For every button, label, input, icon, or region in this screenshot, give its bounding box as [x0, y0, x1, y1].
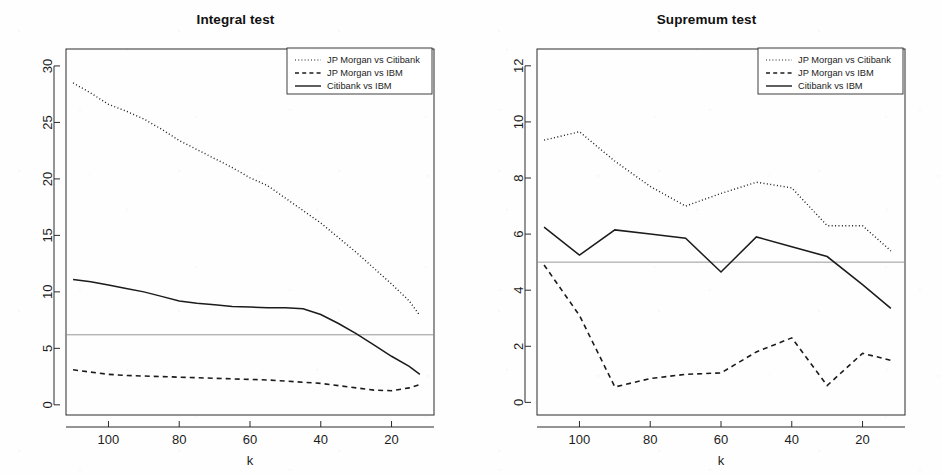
y-tick-label: 15 — [41, 228, 56, 242]
chart-panel-integral-test: Integral test 05101520253010080604020kJP… — [0, 0, 471, 475]
series-line-right-0 — [544, 132, 891, 251]
y-tick-label: 5 — [41, 345, 56, 352]
y-tick-label: 0 — [41, 401, 56, 408]
series-line-right-2 — [544, 227, 891, 308]
x-tick-label: 20 — [855, 432, 869, 447]
series-line-left-0 — [73, 83, 420, 316]
x-axis: 10080604020 — [66, 421, 434, 447]
legend: JP Morgan vs CitibankJP Morgan vs IBMCit… — [758, 48, 903, 94]
legend-label: JP Morgan vs IBM — [327, 68, 403, 78]
x-tick-label: 20 — [384, 432, 398, 447]
series-line-left-1 — [73, 370, 420, 391]
legend-label: JP Morgan vs IBM — [798, 68, 874, 78]
x-tick-label: 60 — [714, 432, 728, 447]
x-axis: 10080604020 — [537, 421, 905, 447]
y-tick-label: 6 — [512, 230, 527, 237]
x-tick-label: 100 — [569, 432, 591, 447]
plot-area-integral-test: 05101520253010080604020kJP Morgan vs Cit… — [0, 0, 471, 475]
plot-frame — [66, 49, 434, 415]
y-axis: 024681012 — [512, 59, 532, 406]
y-tick-label: 30 — [41, 59, 56, 73]
chart-panel-supremum-test: Supremum test 02468101210080604020kJP Mo… — [471, 0, 942, 475]
legend-label: JP Morgan vs Citibank — [327, 55, 420, 65]
y-tick-label: 4 — [512, 287, 527, 294]
x-axis-title: k — [718, 453, 725, 468]
plot-frame — [537, 49, 905, 415]
x-tick-label: 40 — [314, 432, 328, 447]
y-tick-label: 10 — [41, 285, 56, 299]
x-axis-title: k — [247, 453, 254, 468]
y-tick-label: 0 — [512, 399, 527, 406]
legend-label: Citibank vs IBM — [798, 81, 863, 91]
x-tick-label: 80 — [172, 432, 186, 447]
x-tick-label: 40 — [785, 432, 799, 447]
y-axis: 051015202530 — [41, 59, 61, 409]
y-tick-label: 12 — [512, 59, 527, 73]
series-line-right-1 — [544, 265, 891, 387]
x-tick-label: 80 — [643, 432, 657, 447]
figure-page: Integral test 05101520253010080604020kJP… — [0, 0, 942, 475]
x-tick-label: 60 — [243, 432, 257, 447]
x-tick-label: 100 — [98, 432, 120, 447]
y-tick-label: 25 — [41, 115, 56, 129]
y-tick-label: 10 — [512, 115, 527, 129]
legend-label: Citibank vs IBM — [327, 81, 392, 91]
y-tick-label: 20 — [41, 172, 56, 186]
legend-label: JP Morgan vs Citibank — [798, 55, 891, 65]
plot-area-supremum-test: 02468101210080604020kJP Morgan vs Citiba… — [471, 0, 942, 475]
legend: JP Morgan vs CitibankJP Morgan vs IBMCit… — [287, 48, 432, 94]
y-tick-label: 8 — [512, 174, 527, 181]
y-tick-label: 2 — [512, 343, 527, 350]
series-line-left-2 — [73, 279, 420, 374]
